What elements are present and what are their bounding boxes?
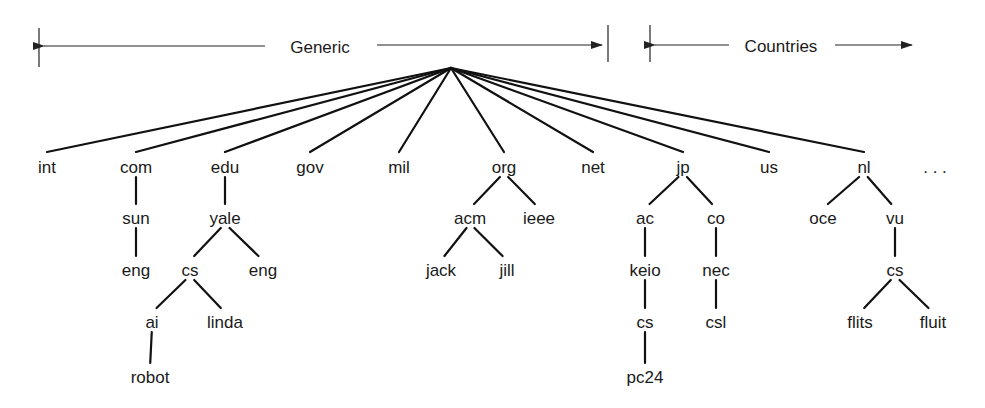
tree-node-cs-flits: flits bbox=[847, 313, 873, 332]
tree-node-edu: edu bbox=[211, 158, 239, 177]
tree-node-yale-eng: eng bbox=[249, 261, 277, 280]
tree-node-jp-ac: ac bbox=[636, 209, 654, 228]
domain-name-tree-diagram: Generic Countries intcomedugovmilorgnetj… bbox=[0, 0, 985, 408]
tree-node-keio-cs: cs bbox=[637, 313, 654, 332]
generic-label: Generic bbox=[290, 38, 350, 57]
tree-edge bbox=[47, 68, 451, 152]
tree-edge bbox=[474, 228, 502, 256]
tree-node-acm-jill: jill bbox=[498, 261, 514, 280]
tree-node-cs-ai: ai bbox=[145, 313, 158, 332]
tree-edge bbox=[474, 177, 500, 204]
tree-edge bbox=[225, 68, 451, 152]
tree-node-labels: intcomedugovmilorgnetjpusnlsunengyalecse… bbox=[38, 158, 946, 387]
tree-edge bbox=[868, 177, 892, 204]
countries-label: Countries bbox=[745, 37, 818, 56]
tree-node-ai-robot: robot bbox=[131, 368, 170, 387]
tree-edge bbox=[451, 68, 593, 152]
tree-node-edu-yale: yale bbox=[209, 209, 240, 228]
tree-node-ac-keio: keio bbox=[629, 261, 660, 280]
ellipsis-more-domains: . . . bbox=[923, 158, 947, 177]
tree-node-com: com bbox=[120, 158, 152, 177]
tree-node-nl: nl bbox=[857, 158, 870, 177]
tree-node-cs-pc24: pc24 bbox=[627, 368, 664, 387]
tree-node-acm-jack: jack bbox=[425, 261, 457, 280]
tree-edge bbox=[194, 228, 221, 256]
tree-node-org-acm: acm bbox=[454, 209, 486, 228]
generic-span-indicator: Generic bbox=[39, 25, 608, 67]
tree-node-gov: gov bbox=[296, 158, 324, 177]
tree-edge bbox=[150, 332, 152, 363]
tree-node-com-sun-eng: eng bbox=[122, 261, 150, 280]
tree-edge bbox=[194, 280, 221, 308]
tree-node-co-nec: nec bbox=[702, 261, 730, 280]
tree-edge bbox=[864, 280, 891, 308]
tree-node-org: org bbox=[492, 158, 517, 177]
tree-edge bbox=[508, 177, 535, 204]
tree-node-us: us bbox=[760, 158, 778, 177]
tree-node-mil: mil bbox=[388, 158, 410, 177]
tree-node-jp-co: co bbox=[707, 209, 725, 228]
tree-node-net: net bbox=[581, 158, 605, 177]
tree-edge bbox=[230, 228, 259, 256]
tree-edge bbox=[828, 177, 859, 204]
tree-node-nec-csl: csl bbox=[706, 313, 727, 332]
tree-node-cs-linda: linda bbox=[207, 313, 243, 332]
tree-edge bbox=[451, 68, 769, 152]
tree-edge bbox=[687, 177, 712, 204]
tree-node-com-sun: sun bbox=[122, 209, 149, 228]
tree-edge bbox=[136, 68, 451, 152]
tree-edge bbox=[451, 68, 683, 152]
tree-node-nl-vu: vu bbox=[886, 209, 904, 228]
tree-edge bbox=[900, 280, 929, 308]
tree-node-cs-fluit: fluit bbox=[920, 313, 947, 332]
tree-node-org-ieee: ieee bbox=[523, 209, 555, 228]
tree-edge bbox=[650, 177, 679, 204]
tree-edge bbox=[310, 68, 451, 152]
tree-node-vu-cs: cs bbox=[887, 261, 904, 280]
tree-node-jp: jp bbox=[675, 158, 689, 177]
tree-edges bbox=[47, 68, 928, 363]
tree-edge bbox=[157, 280, 186, 308]
tree-node-yale-cs: cs bbox=[182, 261, 199, 280]
tree-node-nl-oce: oce bbox=[809, 209, 836, 228]
tree-edge bbox=[451, 68, 864, 152]
tree-edge bbox=[444, 228, 466, 256]
tree-node-int: int bbox=[38, 158, 56, 177]
countries-span-indicator: Countries bbox=[650, 25, 912, 62]
